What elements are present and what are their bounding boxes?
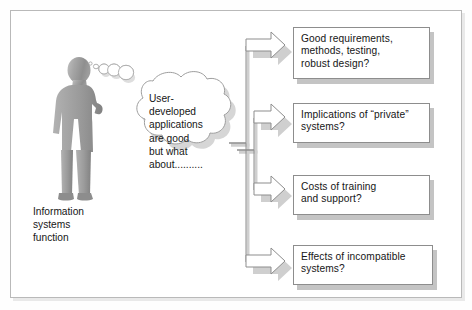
branch-box-2: Implications of “private” systems?: [293, 103, 430, 143]
branch-box-1-line-2: methods, testing,: [301, 45, 422, 57]
arrow-to-branch-4: [246, 248, 292, 281]
branch-box-2-line-2: systems?: [301, 121, 422, 133]
arrow-to-branch-3: [254, 176, 292, 209]
connector-trunk: [229, 46, 254, 262]
diagram-canvas: User- developed applications are good bu…: [0, 0, 472, 310]
thought-cloud-line-3: applications: [149, 118, 223, 131]
actor-caption-line-2: systems: [33, 218, 129, 231]
branch-box-3: Costs of training and support?: [293, 175, 430, 215]
branch-box-4-line-1: Effects of incompatible: [301, 251, 425, 263]
thought-cloud-line-6: about..........: [149, 158, 223, 171]
branch-box-1-line-3: robust design?: [301, 58, 422, 70]
actor-caption-line-3: function: [33, 231, 129, 244]
branch-box-1-line-1: Good requirements,: [301, 33, 422, 45]
branch-box-3-line-1: Costs of training: [301, 181, 422, 193]
person-silhouette-icon: [53, 57, 103, 201]
arrow-to-branch-1: [246, 32, 292, 65]
branch-box-1: Good requirements, methods, testing, rob…: [293, 27, 430, 79]
thought-cloud-text: User- developed applications are good bu…: [149, 92, 223, 171]
branch-box-3-line-2: and support?: [301, 193, 422, 205]
branch-box-4: Effects of incompatible systems?: [293, 245, 433, 285]
thought-cloud-line-1: User-: [149, 92, 223, 105]
thought-cloud-line-2: developed: [149, 105, 223, 118]
thought-cloud-line-5: but what: [149, 145, 223, 158]
actor-caption-line-1: Information: [33, 205, 129, 218]
branch-box-2-line-1: Implications of “private”: [301, 109, 422, 121]
branch-box-4-line-2: systems?: [301, 263, 425, 275]
connector-shadow: [231, 48, 256, 264]
thought-cloud-line-4: are good: [149, 132, 223, 145]
actor-caption: Information systems function: [33, 205, 129, 245]
arrow-to-branch-2: [254, 104, 292, 137]
